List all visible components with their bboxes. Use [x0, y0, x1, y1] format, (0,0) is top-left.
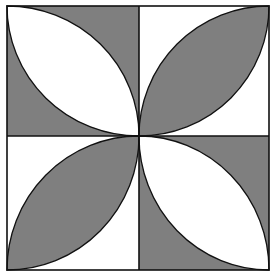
quadrant-bottom-right [139, 136, 269, 270]
four-petal-lens-diagram [0, 0, 271, 274]
quadrant-top-right [139, 6, 269, 136]
quadrant-bottom-left [7, 136, 139, 270]
quadrant-top-left [7, 6, 139, 136]
